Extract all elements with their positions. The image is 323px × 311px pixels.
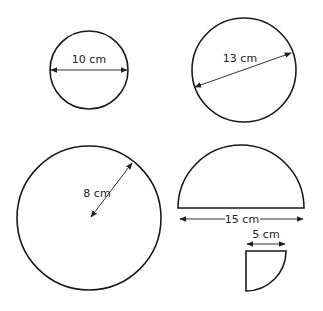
circle-13cm: 13 cm bbox=[192, 18, 296, 122]
radius-label: 8 cm bbox=[83, 187, 110, 200]
quarter-circle-5cm: 5 cm bbox=[246, 228, 286, 291]
circle-8cm-radius: 8 cm bbox=[17, 146, 161, 290]
semicircle-outline bbox=[178, 145, 304, 208]
diameter-label: 15 cm bbox=[225, 213, 259, 226]
circle-10cm: 10 cm bbox=[50, 31, 128, 109]
shapes-diagram: 10 cm 13 cm 8 cm 15 cm 5 cm bbox=[0, 0, 323, 311]
diameter-label: 10 cm bbox=[72, 53, 106, 66]
circle-outline bbox=[17, 146, 161, 290]
radius-label: 5 cm bbox=[252, 228, 279, 241]
diameter-label: 13 cm bbox=[223, 52, 257, 65]
semicircle-15cm: 15 cm bbox=[178, 145, 304, 226]
quarter-circle-outline bbox=[246, 251, 286, 291]
